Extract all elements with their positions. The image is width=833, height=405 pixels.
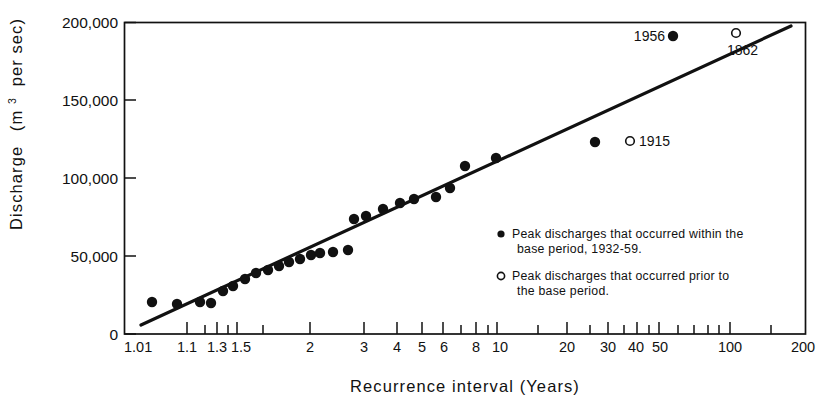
data-point bbox=[263, 265, 273, 275]
data-point bbox=[295, 254, 305, 264]
y-tick-label-200000: 200,000 bbox=[62, 14, 118, 31]
data-point bbox=[590, 137, 600, 147]
x-tick-label-1.5: 1.5 bbox=[231, 339, 251, 355]
data-point bbox=[460, 161, 470, 171]
data-point bbox=[172, 299, 182, 309]
legend-entry-2-line-1: Peak discharges that occurred prior to bbox=[512, 269, 729, 283]
data-point-1915 bbox=[626, 137, 635, 146]
x-axis-tick-labels: 1.01 1.1 1.3 1.5 2 3 4 5 6 8 10 20 30 40… bbox=[124, 339, 815, 355]
data-point bbox=[147, 297, 157, 307]
data-point bbox=[445, 183, 455, 193]
data-point bbox=[349, 214, 359, 224]
x-tick-label-6: 6 bbox=[440, 339, 448, 355]
figure-container: Discharge (m 3 per sec) Recurrence inter… bbox=[0, 0, 833, 405]
x-tick-label-200: 200 bbox=[791, 339, 815, 355]
x-tick-label-5: 5 bbox=[418, 339, 426, 355]
x-axis-ticks bbox=[187, 322, 771, 334]
data-point bbox=[343, 245, 353, 255]
data-point bbox=[409, 194, 419, 204]
y-tick-label-0: 0 bbox=[109, 326, 118, 343]
legend-marker-open-circle-icon bbox=[497, 272, 504, 279]
legend: Peak discharges that occurred within the… bbox=[497, 227, 743, 298]
series-open-points bbox=[626, 29, 741, 146]
data-point bbox=[306, 250, 316, 260]
data-point bbox=[395, 198, 405, 208]
data-point bbox=[315, 248, 325, 258]
legend-marker-filled-circle-icon bbox=[497, 230, 504, 237]
data-point bbox=[228, 281, 238, 291]
x-axis-title: Recurrence interval (Years) bbox=[350, 377, 580, 395]
x-tick-label-100: 100 bbox=[718, 339, 742, 355]
x-tick-label-50: 50 bbox=[652, 339, 668, 355]
y-axis-title: Discharge (m 3 per sec) bbox=[1, 18, 25, 230]
svg-text:Discharge (m 3: Discharge (m 3 per sec) bbox=[1, 18, 25, 230]
data-point bbox=[284, 257, 294, 267]
y-axis-unit-open: (m bbox=[7, 110, 25, 131]
y-axis-tick-labels: 0 50,000 100,000 150,000 200,000 bbox=[62, 14, 118, 343]
y-tick-label-50000: 50,000 bbox=[71, 248, 119, 265]
y-axis-ticks bbox=[125, 23, 137, 335]
x-tick-label-30: 30 bbox=[600, 339, 616, 355]
annotation-1862: 1862 bbox=[727, 42, 758, 58]
x-tick-label-20: 20 bbox=[559, 339, 575, 355]
data-point-1862 bbox=[732, 29, 741, 38]
x-tick-label-8: 8 bbox=[472, 339, 480, 355]
data-point bbox=[361, 211, 371, 221]
x-tick-label-40: 40 bbox=[628, 339, 644, 355]
x-tick-label-1.1: 1.1 bbox=[177, 339, 197, 355]
annotation-1956: 1956 bbox=[634, 28, 665, 44]
x-tick-label-1.01: 1.01 bbox=[124, 339, 152, 355]
x-tick-label-1.3: 1.3 bbox=[207, 339, 227, 355]
annotation-1915: 1915 bbox=[639, 133, 670, 149]
y-axis-unit-superscript: 3 bbox=[6, 97, 18, 104]
series-filled-points bbox=[147, 31, 678, 309]
data-point bbox=[328, 247, 338, 257]
legend-entry-2-line-2: the base period. bbox=[517, 284, 609, 298]
data-point bbox=[378, 204, 388, 214]
y-axis-title-name: Discharge bbox=[7, 146, 25, 230]
x-tick-label-2: 2 bbox=[306, 339, 314, 355]
legend-entry-1-line-2: base period, 1932-59. bbox=[517, 242, 642, 256]
data-point bbox=[491, 153, 501, 163]
data-point bbox=[218, 286, 228, 296]
y-tick-label-150000: 150,000 bbox=[62, 92, 118, 109]
data-point bbox=[206, 298, 216, 308]
data-point bbox=[251, 268, 261, 278]
legend-entry-1-line-1: Peak discharges that occurred within the bbox=[512, 227, 743, 241]
y-axis-unit-rest: per sec) bbox=[7, 18, 25, 86]
x-tick-label-3: 3 bbox=[360, 339, 368, 355]
chart-canvas: Discharge (m 3 per sec) Recurrence inter… bbox=[0, 0, 833, 405]
data-point bbox=[274, 261, 284, 271]
y-tick-label-100000: 100,000 bbox=[62, 170, 118, 187]
data-point bbox=[195, 297, 205, 307]
data-point bbox=[240, 274, 250, 284]
x-tick-label-10: 10 bbox=[492, 339, 508, 355]
data-point bbox=[431, 192, 441, 202]
data-point-1956 bbox=[668, 31, 678, 41]
x-tick-label-4: 4 bbox=[393, 339, 401, 355]
